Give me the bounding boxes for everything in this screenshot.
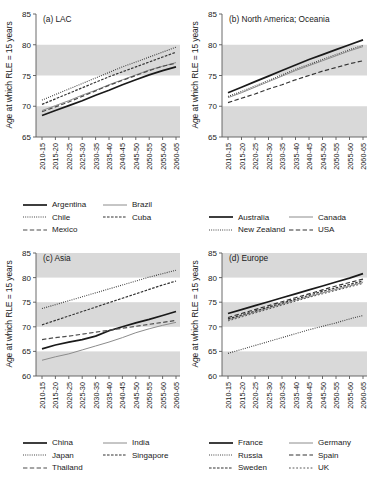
svg-text:2030-35: 2030-35 bbox=[278, 382, 287, 409]
legend-item-usa[interactable]: USA bbox=[288, 225, 368, 235]
legend-row: ArgentinaBrazil bbox=[22, 200, 182, 210]
legend-label: Spain bbox=[318, 451, 338, 460]
legend-item-brazil[interactable]: Brazil bbox=[102, 200, 182, 210]
legend-label: Canada bbox=[318, 213, 346, 222]
svg-text:85: 85 bbox=[22, 10, 31, 19]
svg-text:2030-35: 2030-35 bbox=[92, 143, 101, 170]
legend-c: ChinaIndiaJapanSingaporeThailand bbox=[22, 438, 182, 476]
legend-label: India bbox=[132, 438, 149, 447]
svg-text:75: 75 bbox=[208, 298, 217, 307]
legend-row: Thailand bbox=[22, 463, 182, 473]
legend-label: Brazil bbox=[132, 200, 152, 209]
legend-label: Thailand bbox=[52, 463, 83, 472]
svg-text:2050-55: 2050-55 bbox=[145, 382, 154, 409]
svg-text:2015-20: 2015-20 bbox=[238, 143, 247, 170]
svg-text:65: 65 bbox=[208, 133, 217, 142]
svg-text:2050-55: 2050-55 bbox=[332, 143, 341, 170]
svg-text:75: 75 bbox=[22, 72, 31, 81]
svg-text:2030-35: 2030-35 bbox=[278, 143, 287, 170]
svg-text:(d) Europe: (d) Europe bbox=[229, 253, 269, 263]
legend-key-icon bbox=[22, 450, 48, 460]
legend-label: France bbox=[238, 438, 263, 447]
legend-item-germany[interactable]: Germany bbox=[288, 438, 368, 448]
legend-a: ArgentinaBrazilChileCubaMexico bbox=[22, 200, 182, 238]
svg-text:2055-60: 2055-60 bbox=[346, 143, 355, 170]
svg-text:80: 80 bbox=[208, 41, 217, 50]
legend-label: China bbox=[52, 438, 73, 447]
panel-b: Age at which RLE = 15 years 657075808520… bbox=[186, 0, 373, 239]
svg-text:2030-35: 2030-35 bbox=[92, 382, 101, 409]
svg-text:2035-40: 2035-40 bbox=[292, 143, 301, 170]
figure-panel-grid: Age at which RLE = 15 years 657075808520… bbox=[0, 0, 373, 477]
svg-text:60: 60 bbox=[22, 372, 31, 381]
panel-d: Age at which RLE = 15 years 606570758085… bbox=[186, 239, 373, 477]
legend-key-icon bbox=[288, 212, 314, 222]
svg-text:2035-40: 2035-40 bbox=[105, 382, 114, 409]
svg-text:2035-40: 2035-40 bbox=[105, 143, 114, 170]
legend-item-china[interactable]: China bbox=[22, 438, 102, 448]
legend-label: Mexico bbox=[52, 225, 77, 234]
svg-text:2020-25: 2020-25 bbox=[251, 382, 260, 409]
y-axis-label-d: Age at which RLE = 15 years bbox=[188, 239, 202, 389]
legend-item-mexico[interactable]: Mexico bbox=[22, 225, 102, 235]
svg-text:2040-45: 2040-45 bbox=[305, 382, 314, 409]
y-axis-label-b: Age at which RLE = 15 years bbox=[188, 0, 202, 150]
legend-item-canada[interactable]: Canada bbox=[288, 212, 368, 222]
svg-text:2020-25: 2020-25 bbox=[65, 382, 74, 409]
legend-item-argentina[interactable]: Argentina bbox=[22, 200, 102, 210]
legend-item-uk[interactable]: UK bbox=[288, 463, 368, 473]
legend-key-icon bbox=[288, 225, 314, 235]
legend-item-russia[interactable]: Russia bbox=[208, 450, 288, 460]
legend-item-singapore[interactable]: Singapore bbox=[102, 450, 182, 460]
legend-row: JapanSingapore bbox=[22, 450, 182, 460]
legend-key-icon bbox=[22, 200, 48, 210]
legend-row: ChileCuba bbox=[22, 212, 182, 222]
y-axis-label-c: Age at which RLE = 15 years bbox=[2, 239, 16, 389]
svg-text:2055-60: 2055-60 bbox=[159, 143, 168, 170]
svg-text:75: 75 bbox=[208, 72, 217, 81]
legend-item-japan[interactable]: Japan bbox=[22, 450, 102, 460]
legend-item-chile[interactable]: Chile bbox=[22, 212, 102, 222]
svg-text:2025-30: 2025-30 bbox=[265, 382, 274, 409]
svg-text:80: 80 bbox=[22, 274, 31, 283]
legend-key-icon bbox=[102, 200, 128, 210]
svg-text:70: 70 bbox=[208, 323, 217, 332]
legend-item-australia[interactable]: Australia bbox=[208, 212, 288, 222]
legend-key-icon bbox=[288, 450, 314, 460]
svg-text:70: 70 bbox=[22, 102, 31, 111]
legend-label: Germany bbox=[318, 438, 351, 447]
legend-key-icon bbox=[288, 438, 314, 448]
legend-row: ChinaIndia bbox=[22, 438, 182, 448]
legend-label: Japan bbox=[52, 451, 74, 460]
legend-item-thailand[interactable]: Thailand bbox=[22, 463, 102, 473]
legend-item-spain[interactable]: Spain bbox=[288, 450, 368, 460]
legend-label: Australia bbox=[238, 213, 269, 222]
svg-text:(b) North America; Oceania: (b) North America; Oceania bbox=[229, 14, 330, 24]
legend-item-new-zealand[interactable]: New Zealand bbox=[208, 225, 288, 235]
legend-key-icon bbox=[22, 212, 48, 222]
legend-item-cuba[interactable]: Cuba bbox=[102, 212, 182, 222]
svg-text:2045-50: 2045-50 bbox=[132, 382, 141, 409]
svg-text:2010-15: 2010-15 bbox=[38, 382, 47, 409]
svg-text:2060-65: 2060-65 bbox=[172, 143, 181, 170]
legend-row: Mexico bbox=[22, 225, 182, 235]
svg-text:80: 80 bbox=[208, 274, 217, 283]
legend-key-icon bbox=[208, 463, 234, 473]
legend-label: UK bbox=[318, 463, 329, 472]
legend-item-india[interactable]: India bbox=[102, 438, 182, 448]
svg-text:2045-50: 2045-50 bbox=[319, 143, 328, 170]
legend-label: Sweden bbox=[238, 463, 267, 472]
legend-key-icon bbox=[208, 450, 234, 460]
svg-text:70: 70 bbox=[208, 102, 217, 111]
legend-row: AustraliaCanada bbox=[208, 212, 368, 222]
svg-text:2050-55: 2050-55 bbox=[332, 382, 341, 409]
legend-label: Russia bbox=[238, 451, 262, 460]
svg-text:65: 65 bbox=[22, 133, 31, 142]
legend-item-sweden[interactable]: Sweden bbox=[208, 463, 288, 473]
svg-text:2025-30: 2025-30 bbox=[78, 382, 87, 409]
legend-item-france[interactable]: France bbox=[208, 438, 288, 448]
svg-text:2010-15: 2010-15 bbox=[224, 143, 233, 170]
svg-text:2045-50: 2045-50 bbox=[132, 143, 141, 170]
svg-text:2060-65: 2060-65 bbox=[172, 382, 181, 409]
svg-text:70: 70 bbox=[22, 323, 31, 332]
